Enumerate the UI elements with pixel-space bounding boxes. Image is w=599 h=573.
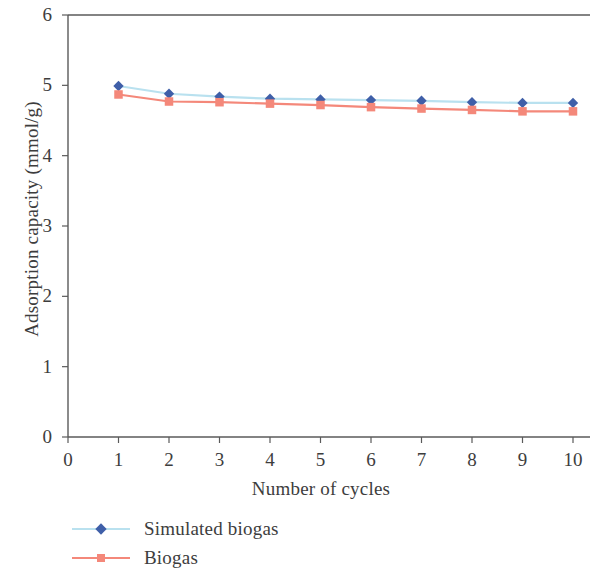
data-point-marker bbox=[266, 99, 275, 108]
legend-item-biogas: Biogas bbox=[72, 543, 279, 572]
legend-label: Simulated biogas bbox=[144, 518, 279, 540]
data-point-marker bbox=[114, 90, 123, 99]
square-marker-icon bbox=[97, 554, 105, 562]
diamond-marker-icon bbox=[95, 523, 106, 534]
legend-key-simulated-biogas bbox=[72, 522, 130, 536]
y-axis-tick-label: 1 bbox=[24, 357, 52, 376]
data-point-marker bbox=[517, 98, 527, 108]
y-axis-tick-label: 6 bbox=[24, 5, 52, 24]
data-point-marker bbox=[518, 107, 527, 116]
data-point-marker bbox=[468, 106, 477, 115]
x-axis-tick-label: 10 bbox=[553, 450, 593, 469]
data-point-marker bbox=[367, 103, 376, 112]
x-axis-tick-label: 6 bbox=[351, 450, 391, 469]
x-axis-tick-label: 7 bbox=[402, 450, 442, 469]
x-axis-tick-label: 9 bbox=[503, 450, 543, 469]
data-point-marker bbox=[113, 81, 123, 91]
legend-key-biogas bbox=[72, 551, 130, 565]
series-line bbox=[119, 86, 574, 103]
data-point-marker bbox=[569, 107, 578, 116]
chart-legend: Simulated biogas Biogas bbox=[72, 514, 279, 572]
y-axis-tick-label: 2 bbox=[24, 286, 52, 305]
x-axis-title: Number of cycles bbox=[68, 478, 574, 500]
x-axis-tick-label: 4 bbox=[250, 450, 290, 469]
data-point-marker bbox=[165, 97, 174, 106]
x-axis-tick-label: 8 bbox=[452, 450, 492, 469]
data-point-marker bbox=[215, 98, 224, 107]
x-axis-tick-label: 2 bbox=[149, 450, 189, 469]
chart-figure: Adsorption capacity (mmol/g) Number of c… bbox=[0, 0, 599, 573]
y-axis-tick-label: 4 bbox=[24, 146, 52, 165]
legend-item-simulated-biogas: Simulated biogas bbox=[72, 514, 279, 543]
data-point-marker bbox=[417, 104, 426, 113]
y-axis-tick-label: 3 bbox=[24, 216, 52, 235]
x-axis-tick-label: 1 bbox=[99, 450, 139, 469]
y-axis-tick-label: 0 bbox=[24, 427, 52, 446]
x-axis-tick-label: 3 bbox=[200, 450, 240, 469]
x-axis-tick-label: 0 bbox=[48, 450, 88, 469]
data-point-marker bbox=[568, 98, 578, 108]
y-axis-tick-label: 5 bbox=[24, 75, 52, 94]
data-point-marker bbox=[316, 101, 325, 110]
x-axis-tick-label: 5 bbox=[301, 450, 341, 469]
legend-label: Biogas bbox=[144, 547, 198, 569]
